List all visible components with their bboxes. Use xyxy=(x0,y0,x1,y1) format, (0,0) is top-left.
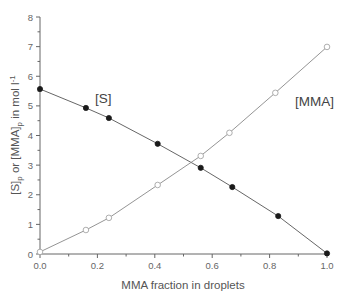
y-tick-label: 2 xyxy=(28,189,33,200)
x-tick-label: 0.2 xyxy=(91,260,104,271)
y-title-s: [S] xyxy=(9,181,21,195)
axes: 0.00.20.40.60.81.0012345678 xyxy=(28,12,334,272)
data-point-s xyxy=(198,165,203,170)
y-axis-title: [S]p or [MMA]p in mol l-1 xyxy=(8,75,24,195)
data-point-mma xyxy=(106,215,112,221)
data-point-s xyxy=(155,141,160,146)
data-point-s xyxy=(37,86,42,91)
chart-canvas: 0.00.20.40.60.81.0012345678 [S] [MMA] MM… xyxy=(0,0,345,304)
y-tick-label: 5 xyxy=(28,100,33,111)
y-title-unit-sup: -1 xyxy=(8,75,17,83)
x-tick-label: 1.0 xyxy=(320,260,333,271)
y-tick-label: 0 xyxy=(28,249,33,260)
y-tick-label: 6 xyxy=(28,71,33,82)
data-point-mma xyxy=(155,182,161,188)
data-point-s xyxy=(276,213,281,218)
y-tick-label: 4 xyxy=(28,130,33,141)
data-point-s xyxy=(324,251,329,256)
y-tick-label: 3 xyxy=(28,160,33,171)
data-point-mma xyxy=(37,249,43,255)
series-label-s: [S] xyxy=(95,91,112,106)
data-point-s xyxy=(106,115,111,120)
y-tick-label: 8 xyxy=(28,12,33,23)
data-point-mma xyxy=(198,153,204,159)
series-line-mma xyxy=(40,47,327,252)
y-title-mid: or [MMA] xyxy=(9,126,21,176)
data-point-s xyxy=(230,184,235,189)
chart: 0.00.20.40.60.81.0012345678 [S] [MMA] MM… xyxy=(0,0,345,304)
x-tick-label: 0.0 xyxy=(33,260,46,271)
series-label-mma: [MMA] xyxy=(295,94,334,109)
data-point-mma xyxy=(83,227,89,233)
x-tick-label: 0.6 xyxy=(206,260,219,271)
x-axis-title: MMA fraction in droplets xyxy=(121,279,245,291)
data-point-mma xyxy=(273,90,279,96)
data-point-mma xyxy=(324,44,330,50)
y-title-unit: in mol l xyxy=(9,82,21,122)
y-tick-label: 7 xyxy=(28,41,33,52)
x-tick-label: 0.8 xyxy=(263,260,276,271)
x-tick-label: 0.4 xyxy=(148,260,161,271)
data-point-mma xyxy=(227,130,233,136)
series-lines xyxy=(40,47,327,254)
series-markers xyxy=(37,44,330,256)
data-point-s xyxy=(83,105,88,110)
y-tick-label: 1 xyxy=(28,219,33,230)
